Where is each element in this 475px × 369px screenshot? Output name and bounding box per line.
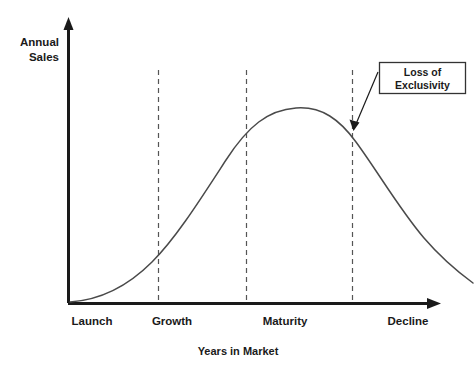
stage-label-decline: Decline [388, 315, 429, 327]
y-axis-title-line1: Annual [20, 36, 59, 48]
callout-label-line2: Exclusivity [395, 79, 450, 91]
chart-background [0, 0, 475, 369]
product-lifecycle-chart: Loss of Exclusivity Annual Sales Launch … [0, 0, 475, 369]
y-axis-title-line2: Sales [29, 51, 59, 63]
stage-label-launch: Launch [72, 315, 113, 327]
stage-label-growth: Growth [152, 315, 192, 327]
callout-box[interactable]: Loss of Exclusivity [380, 63, 466, 94]
stage-label-maturity: Maturity [263, 315, 308, 327]
x-axis-title: Years in Market [198, 345, 279, 357]
callout-label-line1: Loss of [404, 66, 442, 78]
